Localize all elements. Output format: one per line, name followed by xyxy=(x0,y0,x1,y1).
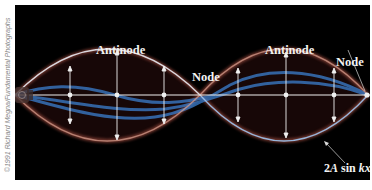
formula-kx: kx xyxy=(359,161,370,175)
standing-wave-photo: Antinode Antinode Node Node 2A sin kx xyxy=(15,5,370,180)
antinode-label-right: Antinode xyxy=(265,44,314,57)
photo-credit-text: ©1991 Richard Megna/Fundamental Photogra… xyxy=(3,18,12,172)
photo-credit: ©1991 Richard Megna/Fundamental Photogra… xyxy=(0,0,14,190)
antinode-label-left: Antinode xyxy=(96,44,145,57)
node-label-middle: Node xyxy=(192,71,220,84)
envelope-pointer-line xyxy=(326,143,345,163)
envelope-formula-label: 2A sin kx xyxy=(324,162,370,174)
formula-amplitude: A xyxy=(330,161,338,175)
node-label-right: Node xyxy=(336,56,364,69)
formula-sin: sin xyxy=(338,161,359,175)
standing-wave-diagram xyxy=(15,5,370,180)
